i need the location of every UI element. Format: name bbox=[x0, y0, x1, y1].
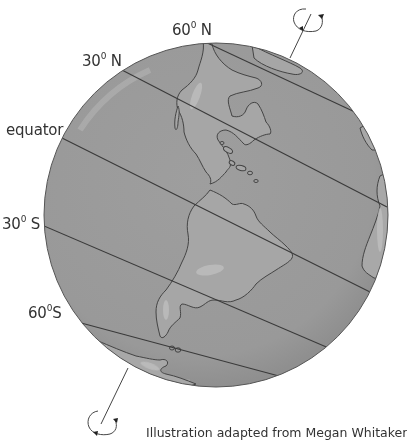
illustration-credit: Illustration adapted from Megan Whitaker bbox=[146, 425, 407, 440]
globe bbox=[44, 41, 392, 400]
degree-symbol: 0 bbox=[21, 214, 27, 224]
label-60s-value: 60 bbox=[28, 304, 47, 322]
label-60s: 600S bbox=[28, 304, 62, 322]
north-rotation-arrow-icon bbox=[294, 9, 325, 32]
axis-south-line bbox=[101, 368, 128, 424]
label-60n-direction: N bbox=[201, 21, 212, 39]
degree-symbol: 0 bbox=[101, 51, 107, 61]
degree-symbol: 0 bbox=[191, 20, 197, 30]
label-30s: 300 S bbox=[2, 215, 40, 233]
label-30s-direction: S bbox=[31, 215, 40, 233]
label-30n-direction: N bbox=[111, 52, 122, 70]
label-30s-value: 30 bbox=[2, 215, 21, 233]
label-60n: 600 N bbox=[172, 21, 212, 39]
label-60s-direction: S bbox=[52, 304, 61, 322]
degree-symbol: 0 bbox=[47, 303, 53, 313]
label-30n-value: 30 bbox=[82, 52, 101, 70]
label-equator: equator bbox=[6, 121, 63, 139]
south-rotation-arrow-icon bbox=[88, 411, 118, 436]
label-60n-value: 60 bbox=[172, 21, 191, 39]
label-30n: 300 N bbox=[82, 52, 122, 70]
